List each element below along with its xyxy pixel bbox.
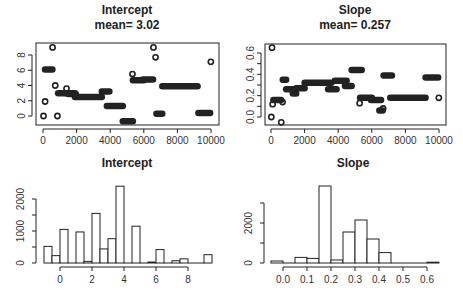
x-tick-label: 8000 xyxy=(166,135,189,146)
x-tick-label: 0.0 xyxy=(276,274,290,285)
histogram-bar xyxy=(331,260,343,263)
trace-point xyxy=(269,114,274,119)
x-tick-label: 10000 xyxy=(425,135,453,146)
trace-point xyxy=(208,59,213,64)
histogram-bar xyxy=(84,261,92,263)
y-tick-label: 0.2 xyxy=(245,88,256,102)
y-tick-label: 6 xyxy=(16,67,27,73)
y-tick-label: 8 xyxy=(16,52,27,58)
hist-slope-panel: Slope 0.00.10.20.30.40.50.602000 xyxy=(243,156,439,285)
trace-point xyxy=(50,45,55,50)
trace-point xyxy=(153,55,158,60)
hist-slope-plot: 0.00.10.20.30.40.50.602000 xyxy=(243,186,439,285)
histogram-bar xyxy=(132,226,140,263)
histogram-bar xyxy=(427,262,439,263)
histogram-bar xyxy=(92,213,100,263)
x-tick-label: 0.2 xyxy=(324,274,338,285)
histogram-bar xyxy=(148,262,156,263)
y-tick-label: 0 xyxy=(16,113,27,119)
trace-point xyxy=(64,86,69,91)
y-tick-label: 0.4 xyxy=(245,67,256,81)
histogram-bar xyxy=(76,232,84,263)
trace-slope-title: Slope xyxy=(339,3,372,17)
histogram-bar xyxy=(52,256,60,263)
x-tick-label: 6000 xyxy=(361,135,384,146)
histogram-bar xyxy=(44,246,52,263)
trace-slope-plot: 02000400060008000100000.00.20.40.6 xyxy=(245,44,453,146)
trace-slope-subtitle: mean= 0.257 xyxy=(319,18,391,32)
histogram-bar xyxy=(295,257,307,263)
y-tick-label: 4 xyxy=(16,82,27,88)
histogram-bar xyxy=(367,239,379,263)
x-tick-label: 2000 xyxy=(65,135,88,146)
trace-point xyxy=(43,99,48,104)
trace-point xyxy=(279,120,284,125)
histogram-bar xyxy=(60,229,68,263)
y-tick-label: 1000 xyxy=(15,219,26,242)
plot-frame xyxy=(265,44,446,125)
x-tick-label: 0 xyxy=(40,135,46,146)
trace-point xyxy=(130,71,135,76)
trace-point xyxy=(357,101,362,106)
trace-point xyxy=(55,113,60,118)
x-tick-label: 8 xyxy=(185,274,191,285)
y-tick-label: 0 xyxy=(243,260,254,266)
x-tick-label: 10000 xyxy=(197,135,225,146)
figure: Intercept mean= 3.02 0200040006000800010… xyxy=(0,0,463,302)
x-tick-label: 6 xyxy=(153,274,159,285)
y-tick-label: 2000 xyxy=(15,187,26,210)
histogram-bar xyxy=(343,232,355,263)
trace-point xyxy=(269,45,274,50)
x-tick-label: 0.4 xyxy=(372,274,386,285)
histogram-bar xyxy=(355,220,367,263)
trace-intercept-title: Intercept xyxy=(102,3,153,17)
x-tick-label: 0.3 xyxy=(348,274,362,285)
y-tick-label: 2000 xyxy=(243,211,254,234)
histogram-bar xyxy=(100,249,108,263)
trace-intercept-subtitle: mean= 3.02 xyxy=(94,18,159,32)
histogram-bar xyxy=(204,255,212,263)
histogram-bar xyxy=(271,261,283,263)
trace-point xyxy=(436,95,441,100)
hist-intercept-title: Intercept xyxy=(102,156,153,170)
histogram-bar xyxy=(180,259,188,263)
x-tick-label: 2 xyxy=(89,274,95,285)
trace-intercept-plot: 020004000600080001000002468 xyxy=(16,43,225,146)
trace-point xyxy=(151,45,156,50)
histogram-bar xyxy=(156,250,164,263)
x-tick-label: 4000 xyxy=(327,135,350,146)
x-tick-label: 6000 xyxy=(133,135,156,146)
y-tick-label: 0 xyxy=(15,260,26,266)
x-tick-label: 4000 xyxy=(99,135,122,146)
x-tick-label: 0 xyxy=(268,135,274,146)
trace-slope-panel: Slope mean= 0.257 0200040006000800010000… xyxy=(245,3,453,146)
histogram-bar xyxy=(379,253,391,263)
y-tick-label: 2 xyxy=(16,98,27,104)
trace-point xyxy=(53,83,58,88)
hist-slope-title: Slope xyxy=(337,156,370,170)
trace-point xyxy=(41,113,46,118)
hist-intercept-panel: Intercept 02468010002000 xyxy=(15,156,212,285)
histogram-bar xyxy=(116,186,124,263)
x-tick-label: 8000 xyxy=(394,135,417,146)
x-tick-label: 4 xyxy=(121,274,127,285)
hist-intercept-plot: 02468010002000 xyxy=(15,186,212,285)
x-tick-label: 0.1 xyxy=(300,274,314,285)
x-tick-label: 0.6 xyxy=(420,274,434,285)
histogram-bar xyxy=(172,261,180,263)
histogram-bar xyxy=(319,186,331,263)
x-tick-label: 0 xyxy=(57,274,63,285)
x-tick-label: 2000 xyxy=(293,135,316,146)
histogram-bar xyxy=(108,239,116,263)
x-tick-label: 0.5 xyxy=(396,274,410,285)
histogram-bar xyxy=(307,258,319,263)
y-tick-label: 0.0 xyxy=(245,110,256,124)
trace-intercept-panel: Intercept mean= 3.02 0200040006000800010… xyxy=(16,3,225,146)
y-tick-label: 0.6 xyxy=(245,46,256,60)
